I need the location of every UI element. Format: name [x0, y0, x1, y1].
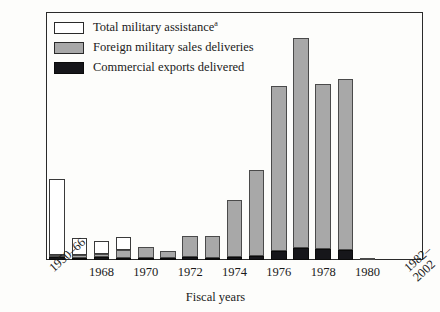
bar [271, 86, 287, 260]
bar-segment-fms [205, 236, 221, 258]
bar-segment-commercial [315, 249, 331, 261]
bar-segment-assistance [94, 241, 110, 253]
x-axis-label: 1970 [129, 266, 163, 279]
bar-segment-fms [182, 236, 198, 257]
chart-legend: Total military assistanceaForeign milita… [54, 18, 254, 78]
bar-segment-fms [138, 247, 154, 258]
bar-segment-commercial [293, 248, 309, 260]
bar-segment-assistance [116, 237, 132, 250]
bar-segment-fms [293, 38, 309, 248]
legend-label: Total military assistancea [93, 19, 218, 35]
bar-segment-fms [249, 170, 265, 257]
bar-segment-fms [360, 258, 376, 260]
bar-segment-commercial [160, 258, 176, 260]
legend-item: Total military assistancea [54, 18, 254, 37]
bar [293, 38, 309, 260]
x-axis-label: 1976 [262, 266, 296, 279]
x-axis-label: 1980 [351, 266, 385, 279]
x-axis-label: 1972 [173, 266, 207, 279]
bar-segment-commercial [182, 257, 198, 260]
bar-segment-fms [271, 86, 287, 252]
bar-segment-fms [160, 251, 176, 258]
bar [138, 247, 154, 260]
bar-segment-commercial [116, 258, 132, 260]
x-axis-label: 1978 [306, 266, 340, 279]
bar-segment-commercial [249, 256, 265, 260]
bar [182, 236, 198, 260]
bar [249, 170, 265, 260]
bar [338, 79, 354, 260]
legend-label: Commercial exports delivered [93, 60, 244, 75]
x-axis-label: 1968 [84, 266, 118, 279]
legend-footnote-marker: a [214, 19, 218, 28]
bar [315, 84, 331, 260]
white-square-icon [54, 22, 84, 34]
legend-label: Foreign military sales deliveries [93, 40, 254, 55]
bar-segment-fms [315, 84, 331, 249]
bar-segment-assistance [49, 179, 65, 255]
bar-segment-fms [227, 200, 243, 258]
bar [116, 237, 132, 260]
bar-segment-commercial [205, 258, 221, 260]
bar-segment-commercial [227, 257, 243, 260]
bar [94, 241, 110, 260]
x-axis-title: Fiscal years [0, 290, 431, 305]
bar-segment-commercial [94, 257, 110, 260]
bar [160, 251, 176, 260]
gray-square-icon [54, 42, 84, 54]
bar-segment-commercial [138, 258, 154, 260]
bar [205, 236, 221, 260]
legend-item: Commercial exports delivered [54, 58, 254, 77]
bar [360, 258, 376, 260]
legend-item: Foreign military sales deliveries [54, 38, 254, 57]
black-square-icon [54, 62, 84, 74]
bar-segment-fms [338, 79, 354, 250]
x-axis-label: 1974 [218, 266, 252, 279]
bar-segment-fms [116, 250, 132, 258]
bar [227, 200, 243, 260]
bar-segment-commercial [271, 251, 287, 260]
bar-segment-commercial [338, 250, 354, 260]
